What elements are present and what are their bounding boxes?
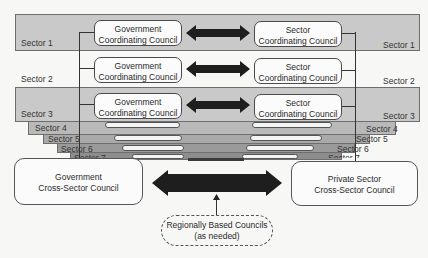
gov-council-sector-7 (132, 154, 184, 159)
gov-council-sector-6 (122, 145, 184, 151)
double-arrow-icon-3 (186, 97, 250, 113)
sector-council-sector-7 (242, 154, 298, 159)
sector-3-label-left: Sector 3 (21, 109, 53, 119)
double-arrow-icon-2 (186, 61, 250, 77)
gov-connector-vertical (79, 32, 80, 162)
large-double-arrow-icon (152, 170, 282, 196)
sector-coordinating-council-1: Sector Coordinating Council (254, 21, 342, 47)
sector-connector-3 (341, 106, 356, 107)
stack-arrow-line (188, 158, 244, 161)
regionally-based-councils: Regionally Based Councils (as needed) (161, 215, 273, 246)
sector-3-label-right: Sector 3 (383, 111, 415, 121)
gov-cross-line2: Cross-Sector Council (15, 183, 142, 194)
gov-council-sector-4 (105, 122, 180, 128)
sector-2-label-left: Sector 2 (21, 74, 53, 84)
regional-line1: Regionally Based Councils (162, 220, 272, 231)
private-cross-line1: Private Sector (292, 174, 417, 185)
sector-council-sector-6 (246, 145, 314, 151)
gov-coordinating-council-1: Government Coordinating Council (94, 20, 182, 46)
regional-line2: (as needed) (162, 231, 272, 242)
sector-1-label-left: Sector 1 (21, 38, 53, 48)
sector-cc-line2: Coordinating Council (255, 73, 341, 84)
sector-cc-line1: Sector (255, 98, 341, 109)
gov-coordinating-council-3: Government Coordinating Council (94, 93, 182, 119)
gov-connector-1 (79, 32, 94, 33)
sector-cc-line2: Coordinating Council (255, 36, 341, 47)
gov-cc-line1: Government (95, 97, 181, 108)
sector-connector-vertical (355, 32, 356, 162)
regional-arrow-line (216, 198, 217, 215)
gov-connector-2 (79, 68, 94, 69)
gov-cross-sector-council: Government Cross-Sector Council (14, 158, 143, 205)
gov-coordinating-council-2: Government Coordinating Council (94, 57, 182, 83)
gov-council-sector-5 (114, 135, 182, 141)
sector-4-label-right: Sector 4 (366, 124, 398, 134)
sector-4-band (28, 121, 396, 135)
double-arrow-icon-1 (186, 25, 250, 41)
sector-council-sector-5 (250, 135, 322, 141)
private-cross-line2: Cross-Sector Council (292, 185, 417, 196)
gov-cc-line2: Coordinating Council (95, 72, 181, 83)
sector-2-label-right: Sector 2 (383, 76, 415, 86)
sector-coordinating-council-3: Sector Coordinating Council (254, 94, 342, 120)
gov-cc-line1: Government (95, 24, 181, 35)
sector-connector-1 (341, 33, 356, 34)
sector-cc-line1: Sector (255, 62, 341, 73)
private-cross-sector-council: Private Sector Cross-Sector Council (291, 161, 418, 206)
sector-1-label-right: Sector 1 (383, 40, 415, 50)
gov-connector-3 (79, 104, 94, 105)
gov-cc-line1: Government (95, 61, 181, 72)
sector-4-label-left: Sector 4 (35, 123, 67, 133)
sector-5-label-left: Sector 5 (48, 134, 80, 144)
gov-cross-line1: Government (15, 172, 142, 183)
sector-council-sector-4 (252, 122, 332, 128)
sector-cc-line1: Sector (255, 25, 341, 36)
sector-coordinating-council-2: Sector Coordinating Council (254, 58, 342, 84)
gov-cc-line2: Coordinating Council (95, 35, 181, 46)
sector-connector-2 (341, 70, 356, 71)
up-arrow-icon (213, 194, 220, 200)
gov-cc-line2: Coordinating Council (95, 108, 181, 119)
sector-5-label-right: Sector 5 (356, 134, 388, 144)
sector-cc-line2: Coordinating Council (255, 109, 341, 120)
